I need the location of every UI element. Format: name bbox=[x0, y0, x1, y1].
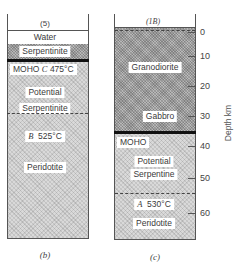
label-potential: Potential bbox=[25, 87, 64, 98]
label-water: Water bbox=[31, 32, 59, 43]
label-peridotite-b: Peridotite bbox=[24, 162, 66, 173]
column-b-header: (5) bbox=[40, 19, 50, 28]
label-serpentine: Serpentine bbox=[130, 169, 177, 180]
tick-10 bbox=[188, 56, 196, 57]
tick-20 bbox=[188, 86, 196, 87]
temp-c: 475°C bbox=[50, 64, 74, 74]
temp-b: 525°C bbox=[38, 131, 62, 141]
tick-60 bbox=[188, 213, 196, 214]
label-moho-c-col: MOHO bbox=[117, 137, 149, 148]
label-peridotite-c: Peridotite bbox=[133, 218, 175, 229]
caption-c: (c) bbox=[150, 252, 160, 262]
boundary-b-dashed bbox=[7, 113, 88, 114]
column-b-bottom-border bbox=[7, 238, 89, 239]
label-point-b: B 525°C bbox=[25, 131, 65, 142]
point-c: C bbox=[42, 64, 48, 74]
tick-label-10: 10 bbox=[200, 51, 210, 61]
axis-title: Depth km bbox=[223, 103, 233, 143]
tick-label-60: 60 bbox=[200, 208, 210, 218]
tick-30 bbox=[188, 116, 196, 117]
caption-b: (b) bbox=[40, 250, 51, 260]
column-c-header: (1B) bbox=[146, 17, 160, 26]
tick-label-30: 30 bbox=[200, 111, 210, 121]
tick-50 bbox=[188, 178, 196, 179]
moho-text: MOHO bbox=[13, 64, 39, 74]
tick-label-0: 0 bbox=[200, 27, 205, 37]
point-a: A bbox=[137, 199, 142, 209]
column-c-bottom-border bbox=[114, 239, 196, 240]
label-potential-c: Potential bbox=[134, 156, 173, 167]
boundary-a-dashed bbox=[115, 193, 195, 194]
tick-label-40: 40 bbox=[200, 141, 210, 151]
label-point-a: A 530°C bbox=[134, 199, 174, 210]
temp-a: 530°C bbox=[147, 199, 171, 209]
column-c-right-border bbox=[195, 14, 196, 240]
label-serpentinite: Serpentinite bbox=[19, 46, 70, 57]
label-granodiorite: Granodiorite bbox=[129, 62, 182, 73]
sea-level-dashed bbox=[115, 30, 195, 31]
point-b: B bbox=[28, 131, 33, 141]
label-moho-c: MOHO C 475°C bbox=[10, 64, 77, 75]
tick-0 bbox=[188, 32, 196, 33]
label-gabbro: Gabbro bbox=[143, 111, 177, 122]
tick-40 bbox=[188, 146, 196, 147]
column-b-right-border bbox=[88, 14, 89, 239]
tick-label-50: 50 bbox=[200, 173, 210, 183]
tick-label-20: 20 bbox=[200, 81, 210, 91]
